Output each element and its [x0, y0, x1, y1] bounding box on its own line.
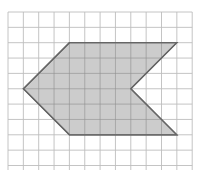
grid-diagram: [0, 0, 197, 170]
